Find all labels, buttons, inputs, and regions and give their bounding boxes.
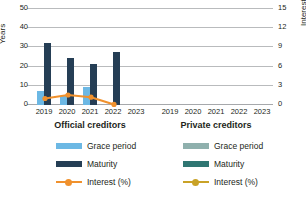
legend-label-official-grace: Grace period bbox=[87, 141, 136, 151]
legend-label-official-maturity: Maturity bbox=[87, 159, 117, 169]
legend-label-private-maturity: Maturity bbox=[214, 159, 244, 169]
legend-item-private-maturity[interactable]: Maturity bbox=[155, 155, 295, 173]
legend-label-private-grace: Grace period bbox=[214, 141, 263, 151]
caption-private-creditors: Private creditors bbox=[157, 120, 275, 130]
legend-private: Grace period Maturity Interest (%) bbox=[155, 137, 295, 191]
x-axis-private: 2019 2020 2021 2022 2023 bbox=[155, 107, 273, 118]
y-tick-left-2: 30 bbox=[4, 42, 28, 50]
y-tick-right-3: 6 bbox=[278, 62, 296, 70]
x-axis-official: 2019 2020 2021 2022 2023 bbox=[29, 107, 147, 118]
y-tick-left-0: 50 bbox=[4, 4, 28, 12]
x-tick-official-4: 2023 bbox=[123, 107, 149, 117]
bars-private bbox=[155, 8, 273, 105]
y-tick-right-1: 12 bbox=[278, 23, 296, 31]
legend-item-private-grace[interactable]: Grace period bbox=[155, 137, 295, 155]
interest-line-official bbox=[29, 8, 147, 105]
x-tick-private-4: 2023 bbox=[249, 107, 275, 117]
y-tick-left-5: 0 bbox=[4, 100, 28, 108]
legend-item-private-interest[interactable]: Interest (%) bbox=[155, 173, 295, 191]
legend-item-official-interest[interactable]: Interest (%) bbox=[28, 173, 168, 191]
panel-official-creditors bbox=[29, 8, 147, 105]
y-tick-right-4: 3 bbox=[278, 81, 296, 89]
chart-figure: 50 40 30 20 10 0 15 12 9 6 3 0 Years Int… bbox=[0, 0, 306, 198]
y-tick-left-1: 40 bbox=[4, 23, 28, 31]
legend-swatch-icon-official-maturity bbox=[56, 161, 82, 167]
y-tick-right-2: 9 bbox=[278, 42, 296, 50]
y-tick-left-3: 20 bbox=[4, 62, 28, 70]
y-axis-title-left: Years bbox=[0, 24, 7, 44]
legend-swatch-icon-private-grace bbox=[183, 143, 209, 149]
legend-swatch-icon-official-grace bbox=[56, 143, 82, 149]
legend-item-official-grace[interactable]: Grace period bbox=[28, 137, 168, 155]
y-axis-title-right: Interest (%) bbox=[299, 0, 306, 26]
bars-official bbox=[29, 8, 147, 105]
legend-line-marker-icon-official-interest bbox=[56, 178, 82, 186]
y-tick-right-5: 0 bbox=[278, 100, 296, 108]
legend-label-private-interest: Interest (%) bbox=[214, 177, 258, 187]
caption-official-creditors: Official creditors bbox=[31, 120, 149, 130]
legend-official: Grace period Maturity Interest (%) bbox=[28, 137, 168, 191]
y-tick-right-0: 15 bbox=[278, 4, 296, 12]
legend-swatch-icon-private-maturity bbox=[183, 161, 209, 167]
legend-label-official-interest: Interest (%) bbox=[87, 177, 131, 187]
legend-line-marker-icon-private-interest bbox=[183, 178, 209, 186]
panel-private-creditors bbox=[155, 8, 273, 105]
y-tick-left-4: 10 bbox=[4, 81, 28, 89]
legend-item-official-maturity[interactable]: Maturity bbox=[28, 155, 168, 173]
